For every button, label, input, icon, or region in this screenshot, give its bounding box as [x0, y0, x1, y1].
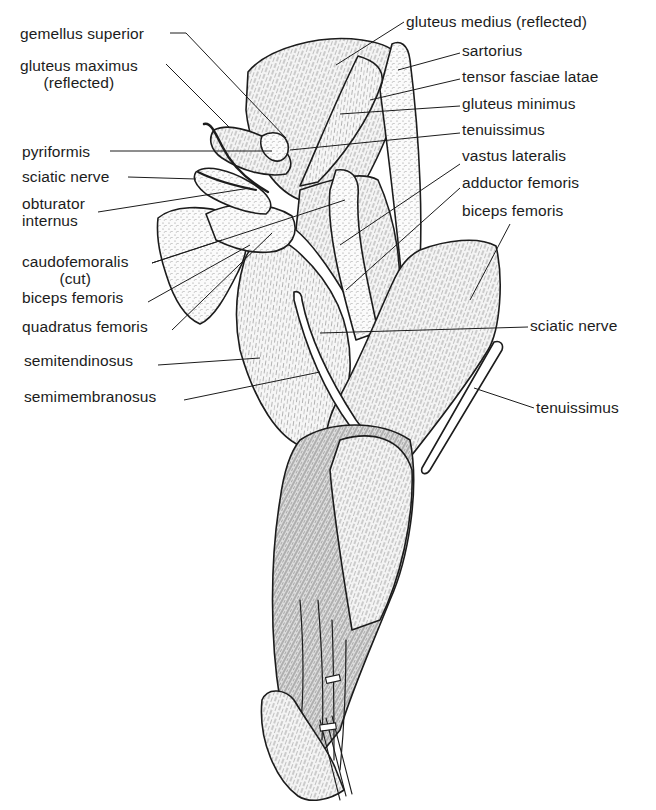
label-line: caudofemoralis	[22, 253, 129, 270]
leader-gluteus-maximus-reflected	[166, 64, 230, 128]
label-line: obturator	[22, 195, 85, 212]
label-caudofemoralis-cut: caudofemoralis(cut)	[22, 253, 129, 287]
label-line: semitendinosus	[24, 352, 133, 369]
label-tenuissimus-top: tenuissimus	[462, 121, 545, 138]
label-line: sciatic nerve	[22, 168, 109, 185]
label-line: quadratus femoris	[22, 318, 148, 335]
label-line: gemellus superior	[20, 25, 144, 42]
gluteus-medius-shape	[246, 39, 405, 200]
label-line: internus	[22, 212, 85, 229]
label-gemellus-superior: gemellus superior	[20, 25, 144, 42]
label-biceps-femoris-left: biceps femoris	[22, 289, 123, 306]
label-biceps-femoris-right: biceps femoris	[462, 202, 563, 219]
label-line: biceps femoris	[22, 289, 123, 306]
label-quadratus-femoris: quadratus femoris	[22, 318, 148, 335]
leader-sciatic-nerve-left	[128, 177, 196, 179]
label-gluteus-maximus-reflected: gluteus maximus(reflected)	[20, 57, 138, 91]
leader-tenuissimus-bottom	[474, 388, 534, 408]
label-line: sartorius	[462, 42, 522, 59]
label-line: gluteus medius (reflected)	[406, 13, 587, 30]
label-sciatic-nerve-right: sciatic nerve	[530, 317, 617, 334]
label-adductor-femoris: adductor femoris	[462, 174, 579, 191]
label-line: (cut)	[22, 270, 129, 287]
label-vastus-lateralis: vastus lateralis	[462, 147, 566, 164]
label-line: gluteus maximus	[20, 57, 138, 74]
label-tenuissimus-bottom: tenuissimus	[536, 399, 619, 416]
label-sartorius: sartorius	[462, 42, 522, 59]
label-pyriformis: pyriformis	[22, 143, 90, 160]
label-line: pyriformis	[22, 143, 90, 160]
label-semitendinosus: semitendinosus	[24, 352, 133, 369]
label-line: semimembranosus	[24, 388, 156, 405]
label-line: vastus lateralis	[462, 147, 566, 164]
label-gluteus-medius-reflected: gluteus medius (reflected)	[406, 13, 587, 30]
label-line: biceps femoris	[462, 202, 563, 219]
label-line: tenuissimus	[536, 399, 619, 416]
label-line: adductor femoris	[462, 174, 579, 191]
label-line: (reflected)	[20, 74, 138, 91]
label-sciatic-nerve-left: sciatic nerve	[22, 168, 109, 185]
label-obturator-internus: obturatorinternus	[22, 195, 85, 229]
drawing-body	[157, 39, 502, 801]
label-line: tensor fasciae latae	[462, 68, 598, 85]
label-semimembranosus: semimembranosus	[24, 388, 156, 405]
label-tensor-fasciae-latae: tensor fasciae latae	[462, 68, 598, 85]
label-line: gluteus minimus	[462, 95, 576, 112]
label-line: tenuissimus	[462, 121, 545, 138]
label-gluteus-minimus: gluteus minimus	[462, 95, 576, 112]
label-line: sciatic nerve	[530, 317, 617, 334]
